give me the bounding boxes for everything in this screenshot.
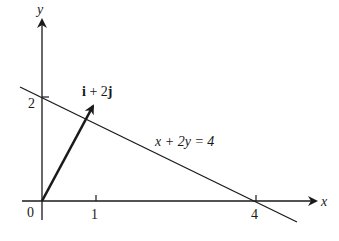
vector-i-plus-2j <box>42 106 93 201</box>
y-tick-label-2: 2 <box>28 96 35 111</box>
vector-label-j: j <box>107 84 113 99</box>
vector-label-plus: + 2 <box>86 84 108 99</box>
origin-label: 0 <box>27 205 34 220</box>
y-axis-label: y <box>35 2 44 17</box>
x-axis-label: x <box>320 194 328 209</box>
x-tick-label-1: 1 <box>91 207 98 222</box>
diagram-canvas: y x 0 1 4 2 i + 2j x + 2y = 4 <box>0 0 339 241</box>
x-tick-label-4: 4 <box>251 207 258 222</box>
vector-line-diagram: y x 0 1 4 2 i + 2j x + 2y = 4 <box>0 0 339 241</box>
line-x-plus-2y-equals-4 <box>20 87 297 222</box>
vector-label: i + 2j <box>82 84 112 99</box>
line-equation-label: x + 2y = 4 <box>154 134 214 149</box>
